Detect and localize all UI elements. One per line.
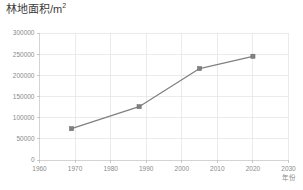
- data-point-marker: [251, 54, 255, 58]
- x-axis-name: 年份: [282, 173, 296, 182]
- x-axis-tick-label: 2010: [210, 165, 225, 172]
- x-axis-tick-label: 1970: [68, 165, 83, 172]
- x-axis-tick-label: 1990: [139, 165, 154, 172]
- x-axis-tick-label: 2020: [246, 165, 261, 172]
- data-point-marker: [197, 66, 201, 70]
- y-axis-tick-label: 300000: [13, 29, 35, 36]
- y-axis-tick-label: 100000: [13, 114, 35, 121]
- y-axis-tick-label: 250000: [13, 51, 35, 58]
- y-axis-tick-label: 200000: [13, 72, 35, 79]
- x-axis-name-label: 年份: [282, 173, 296, 182]
- x-axis-tick-label: 2030: [281, 165, 296, 172]
- data-point-marker: [69, 127, 73, 131]
- x-axis-tick-label: 1980: [103, 165, 118, 172]
- horizontal-gridlines: [40, 33, 289, 139]
- y-axis-tick-label: 50000: [16, 135, 34, 142]
- data-series-layer: [69, 54, 255, 131]
- y-axis-tick-label: 0: [31, 156, 35, 163]
- data-point-marker: [137, 105, 141, 109]
- x-axis-tick-label: 1960: [32, 165, 47, 172]
- x-axis-tick-labels: 19601970198019902000201020202030: [32, 165, 296, 172]
- y-axis-tick-label: 150000: [13, 93, 35, 100]
- forest-area-line-chart: 林地面积/m2 05000010000015000020000025000030…: [0, 0, 303, 190]
- y-axis-tick-labels: 050000100000150000200000250000300000: [13, 29, 35, 163]
- x-axis-tick-label: 2000: [175, 165, 190, 172]
- plot-area: 050000100000150000200000250000300000 196…: [0, 0, 303, 190]
